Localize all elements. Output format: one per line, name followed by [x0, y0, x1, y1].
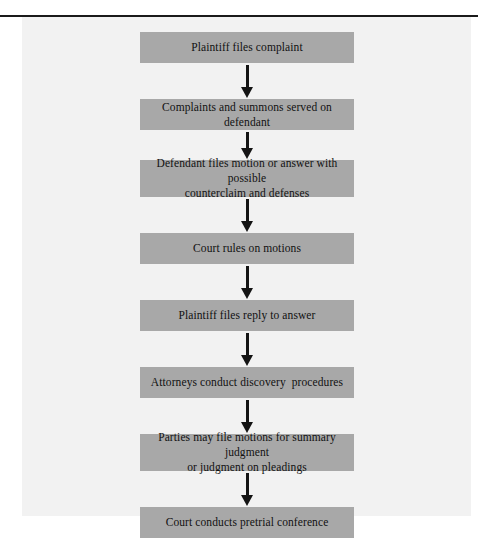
arrow-shaft: [246, 266, 249, 290]
flow-arrow-6-7: [140, 398, 354, 434]
flow-node-step-1: Plaintiff files complaint: [140, 32, 354, 63]
flow-node-label: Court conducts pretrial conference: [166, 515, 329, 530]
arrow-shaft: [246, 400, 249, 424]
flow-arrow-3-4: [140, 197, 354, 233]
arrow-head-down-icon: [241, 355, 253, 366]
flow-node-step-3: Defendant files motion or answer with po…: [140, 160, 354, 197]
flow-node-label: Defendant files motion or answer with po…: [148, 156, 346, 201]
flow-node-label: Complaints and summons served on defenda…: [148, 100, 346, 130]
flow-node-step-7: Parties may file motions for summary jud…: [140, 434, 354, 471]
figure-panel: Plaintiff files complaint Complaints and…: [22, 17, 471, 516]
flow-node-label: Parties may file motions for summary jud…: [148, 430, 346, 475]
arrow-shaft: [246, 65, 249, 89]
arrow-head-down-icon: [241, 422, 253, 433]
flow-node-step-4: Court rules on motions: [140, 233, 354, 264]
flow-node-label: Plaintiff files complaint: [191, 40, 303, 55]
arrow-head-down-icon: [241, 495, 253, 506]
flow-node-step-5: Plaintiff files reply to answer: [140, 300, 354, 331]
flow-arrow-4-5: [140, 264, 354, 300]
flow-node-step-2: Complaints and summons served on defenda…: [140, 99, 354, 130]
flow-node-label: Plaintiff files reply to answer: [178, 308, 315, 323]
flow-node-label: Court rules on motions: [193, 241, 301, 256]
flow-node-label: Attorneys conduct discovery procedures: [151, 375, 343, 390]
flow-node-step-8: Court conducts pretrial conference: [140, 507, 354, 538]
arrow-shaft: [246, 473, 249, 497]
arrow-head-down-icon: [241, 87, 253, 98]
flow-arrow-2-3: [140, 130, 354, 160]
arrow-head-down-icon: [241, 221, 253, 232]
flow-arrow-1-2: [140, 63, 354, 99]
arrow-shaft: [246, 333, 249, 357]
flowchart: Plaintiff files complaint Complaints and…: [140, 32, 354, 538]
arrow-head-down-icon: [241, 288, 253, 299]
flow-node-step-6: Attorneys conduct discovery procedures: [140, 367, 354, 398]
arrow-shaft: [246, 199, 249, 223]
flow-arrow-7-8: [140, 471, 354, 507]
arrow-head-down-icon: [241, 148, 253, 159]
flow-arrow-5-6: [140, 331, 354, 367]
